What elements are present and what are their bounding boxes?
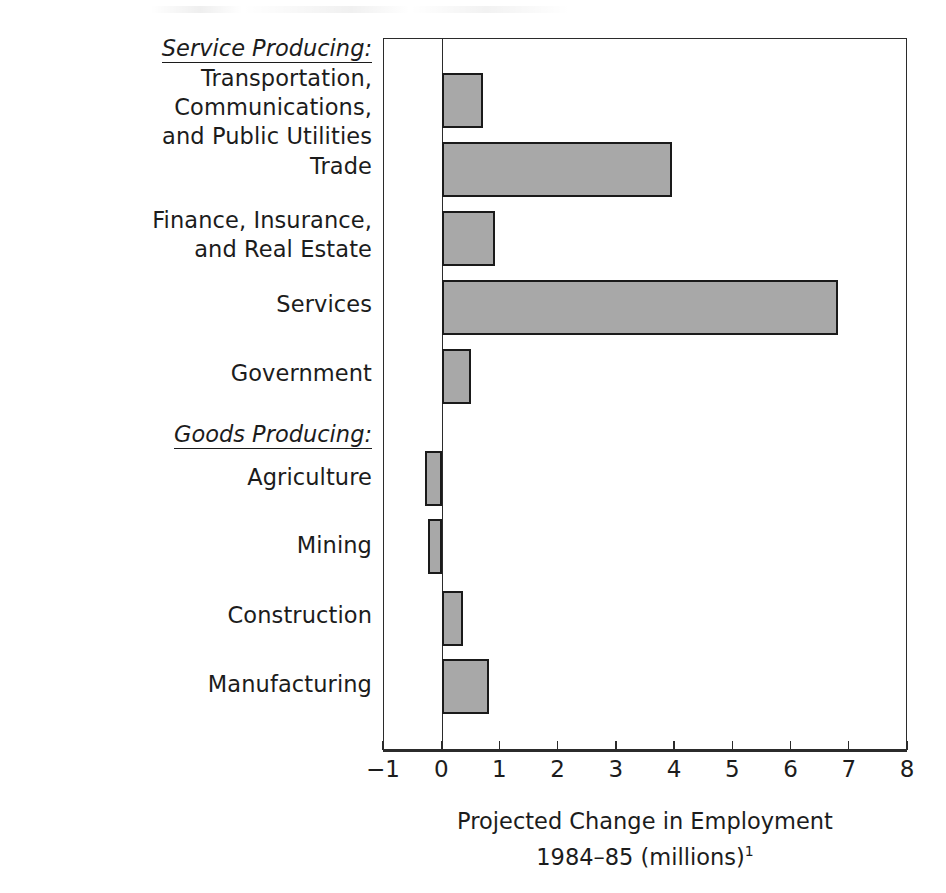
x-tick-label-3: 3 — [586, 756, 646, 782]
x-tick-label-neg1: −1 — [353, 756, 413, 782]
category-label-construction: Construction — [0, 601, 372, 630]
group-heading-goods-producing: Goods Producing: — [0, 420, 372, 449]
bar-construction — [442, 591, 462, 646]
bar-finance-insurance-and-real-estate — [442, 211, 494, 266]
x-tick-0 — [441, 741, 442, 750]
x-tick-8 — [906, 741, 907, 750]
x-tick-label-4: 4 — [644, 756, 704, 782]
category-label-manufacturing: Manufacturing — [0, 670, 372, 699]
bar-services — [442, 280, 838, 335]
bar-transportation-communications-and-public-utilities — [442, 73, 483, 128]
x-tick-3 — [615, 741, 616, 750]
x-tick-label-6: 6 — [761, 756, 821, 782]
caption-line-2: 1984–85 (millions)1 — [383, 836, 907, 872]
category-label-trade: Trade — [0, 152, 372, 181]
group-heading-service-producing: Service Producing: — [0, 34, 372, 63]
category-label-mining: Mining — [0, 531, 372, 560]
x-tick-label-2: 2 — [528, 756, 588, 782]
x-axis-line — [383, 750, 907, 752]
x-tick-4 — [673, 741, 674, 750]
x-tick-label-1: 1 — [469, 756, 529, 782]
x-tick-label-8: 8 — [877, 756, 937, 782]
bar-agriculture — [425, 451, 442, 506]
x-tick-2 — [557, 741, 558, 750]
category-label-services: Services — [0, 290, 372, 319]
bar-trade — [442, 142, 672, 197]
x-tick-neg1 — [382, 741, 383, 750]
x-tick-5 — [732, 741, 733, 750]
category-label-transportation-communications-utilities: Transportation, Communications, and Publ… — [0, 64, 372, 151]
category-label-column: Service Producing: Transportation, Commu… — [0, 0, 372, 760]
x-tick-label-0: 0 — [411, 756, 471, 782]
group-heading-service-producing-text: Service Producing: — [162, 35, 372, 63]
chart-figure: Service Producing: Transportation, Commu… — [0, 0, 946, 893]
caption-line-1: Projected Change in Employment — [383, 806, 907, 836]
plot-area — [383, 38, 907, 750]
x-tick-label-5: 5 — [702, 756, 762, 782]
x-tick-1 — [499, 741, 500, 750]
x-axis: −1012345678 — [383, 750, 907, 751]
group-heading-goods-producing-text: Goods Producing: — [174, 421, 372, 449]
x-tick-6 — [790, 741, 791, 750]
x-axis-caption: Projected Change in Employment 1984–85 (… — [383, 806, 907, 872]
bar-government — [442, 349, 471, 404]
x-tick-7 — [848, 741, 849, 750]
caption-line-2-text: 1984–85 (millions) — [536, 844, 745, 870]
category-label-government: Government — [0, 359, 372, 388]
bar-manufacturing — [442, 659, 489, 714]
caption-footnote-marker: 1 — [745, 843, 754, 859]
x-tick-label-7: 7 — [819, 756, 879, 782]
category-label-finance-insurance-real-estate: Finance, Insurance, and Real Estate — [0, 206, 372, 264]
bar-mining — [428, 519, 443, 574]
category-label-agriculture: Agriculture — [0, 463, 372, 492]
